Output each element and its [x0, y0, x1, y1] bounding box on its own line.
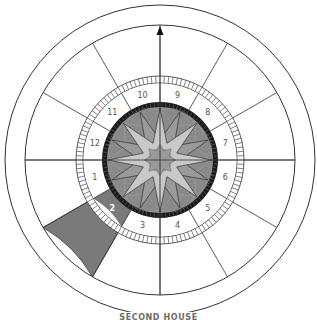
house-cusp-line	[202, 233, 228, 277]
house-number-2: 2	[109, 204, 115, 213]
house-number-10: 10	[137, 91, 147, 100]
house-number-3: 3	[140, 221, 145, 230]
house-number-7: 7	[223, 139, 228, 148]
house-number-12: 12	[90, 139, 100, 148]
house-wheel-chart: 123456789101112	[0, 0, 317, 312]
house-number-11: 11	[107, 108, 117, 117]
house-number-9: 9	[175, 91, 180, 100]
house-number-6: 6	[223, 173, 228, 182]
house-cusp-line	[93, 43, 119, 87]
house-cusp-line	[202, 43, 228, 87]
house-cusp-line	[233, 202, 277, 228]
house-cusp-line	[233, 93, 277, 119]
up-arrow-icon	[157, 26, 164, 35]
house-cusp-line	[43, 93, 87, 119]
chart-caption: SECOND HOUSE	[0, 313, 317, 322]
house-number-8: 8	[205, 108, 210, 117]
house-number-1: 1	[92, 173, 97, 182]
wheel: 123456789101112	[5, 5, 315, 312]
house-number-5: 5	[205, 204, 210, 213]
house-number-4: 4	[175, 221, 180, 230]
